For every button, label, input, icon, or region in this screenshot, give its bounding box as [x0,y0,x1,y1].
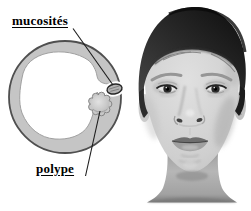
polyp-body [91,95,110,114]
figure-nasal-polyp: mucosités polype [0,0,251,211]
label-polype: polype [36,162,74,175]
woman-portrait-photo [133,0,251,211]
label-mucosites: mucosités [12,14,68,27]
sinus-cross-section-diagram [0,0,133,211]
under-chin-shadow [176,171,208,181]
